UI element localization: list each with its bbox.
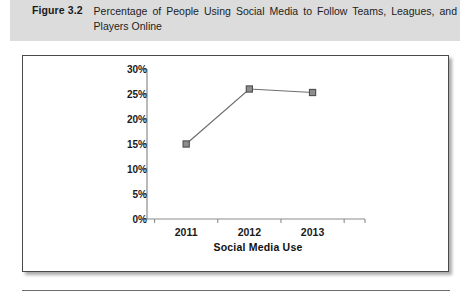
page-bottom-rule bbox=[22, 290, 450, 291]
x-tick-label: 2012 bbox=[238, 226, 261, 238]
y-tick-label: 25% bbox=[127, 89, 147, 100]
data-point-marker bbox=[183, 141, 189, 147]
figure-caption-text: Percentage of People Using Social Media … bbox=[94, 4, 457, 33]
y-tick-label: 5% bbox=[133, 189, 147, 200]
y-tick-label: 30% bbox=[127, 64, 147, 75]
figure-number-label: Figure 3.2 bbox=[32, 4, 83, 16]
x-tick-label: 2013 bbox=[301, 226, 324, 238]
y-tick-label: 20% bbox=[127, 114, 147, 125]
x-tick-label: 2011 bbox=[175, 226, 198, 238]
x-axis-title: Social Media Use bbox=[129, 241, 387, 253]
y-tick-label: 15% bbox=[127, 139, 147, 150]
data-point-marker bbox=[246, 86, 252, 92]
data-point-marker bbox=[309, 89, 315, 95]
series-line bbox=[186, 89, 312, 144]
y-tick-label: 0% bbox=[133, 214, 147, 225]
figure-caption: Figure 3.2 Percentage of People Using So… bbox=[32, 4, 457, 33]
figure-caption-band: Figure 3.2 Percentage of People Using So… bbox=[10, 0, 460, 41]
y-tick-label: 10% bbox=[127, 164, 147, 175]
line-chart: 0%5%10%15%20%25%30% 201120122013 Social … bbox=[23, 56, 448, 271]
y-axis-tick-labels: 0%5%10%15%20%25%30% bbox=[101, 56, 147, 271]
chart-container: 0%5%10%15%20%25%30% 201120122013 Social … bbox=[22, 55, 449, 272]
